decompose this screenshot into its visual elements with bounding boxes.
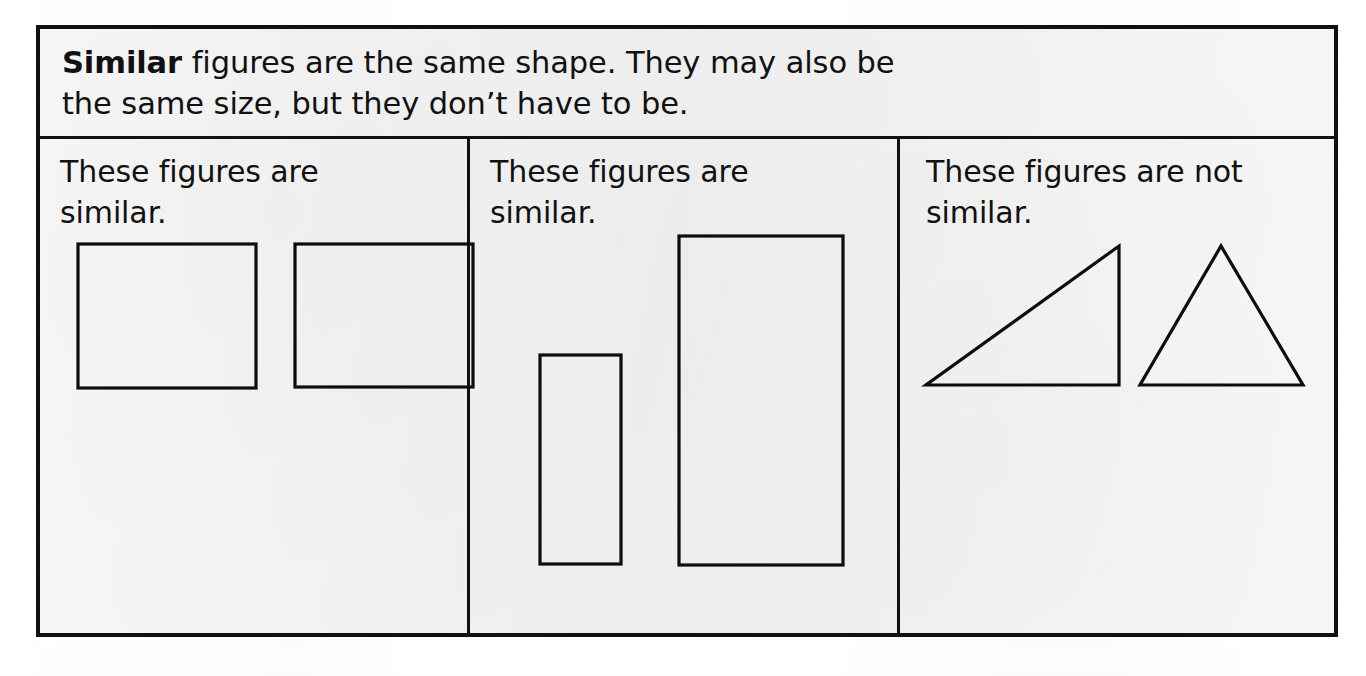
- rectangle-left-figure: [78, 244, 256, 388]
- definition-line-1: Similar figures are the same shape. They…: [62, 42, 1312, 83]
- example-column-similar-scaled-rectangles: These figures are similar.: [470, 139, 900, 633]
- triangle-isosceles-figure: [1140, 246, 1303, 385]
- rectangle-small-figure: [540, 355, 621, 564]
- column-1-figures: [60, 233, 490, 633]
- column-1-figure-stage: [60, 233, 467, 633]
- column-1-caption: These figures are similar.: [60, 151, 467, 233]
- example-column-not-similar-triangles: These figures are not similar.: [900, 139, 1334, 633]
- column-2-figures: [490, 233, 920, 633]
- scan-page: Similar figures are the same shape. They…: [0, 0, 1366, 676]
- column-3-figures: [926, 233, 1356, 633]
- similar-figures-concept-box: Similar figures are the same shape. They…: [36, 25, 1338, 637]
- definition-banner: Similar figures are the same shape. They…: [40, 29, 1334, 139]
- definition-term: Similar: [62, 45, 182, 80]
- column-3-figure-stage: [926, 233, 1334, 633]
- examples-row: These figures are similar. These figures…: [40, 139, 1334, 633]
- triangle-right-figure: [926, 246, 1119, 385]
- column-2-figure-stage: [490, 233, 897, 633]
- column-3-caption: These figures are not similar.: [926, 151, 1334, 233]
- example-column-similar-rectangles: These figures are similar.: [40, 139, 470, 633]
- definition-line-1-rest: figures are the same shape. They may als…: [182, 45, 894, 80]
- rectangle-large-figure: [679, 236, 843, 565]
- definition-line-2: the same size, but they don’t have to be…: [62, 83, 1312, 124]
- rectangle-right-figure: [295, 244, 473, 387]
- column-2-caption: These figures are similar.: [490, 151, 897, 233]
